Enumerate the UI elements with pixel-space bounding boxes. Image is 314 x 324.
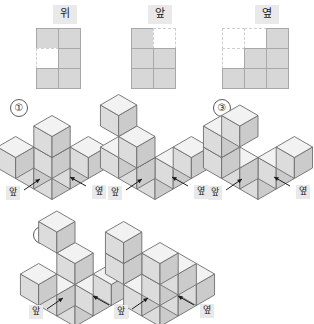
option-5-side-label: 옆 [200, 304, 214, 318]
option-5-front-arrow-icon [126, 292, 154, 315]
option-5-figure [0, 0, 314, 324]
option-5-side-arrow-icon [172, 290, 200, 311]
question-page: 위앞옆 ①앞옆②앞옆③앞옆④앞옆⑤앞옆 [0, 0, 314, 324]
